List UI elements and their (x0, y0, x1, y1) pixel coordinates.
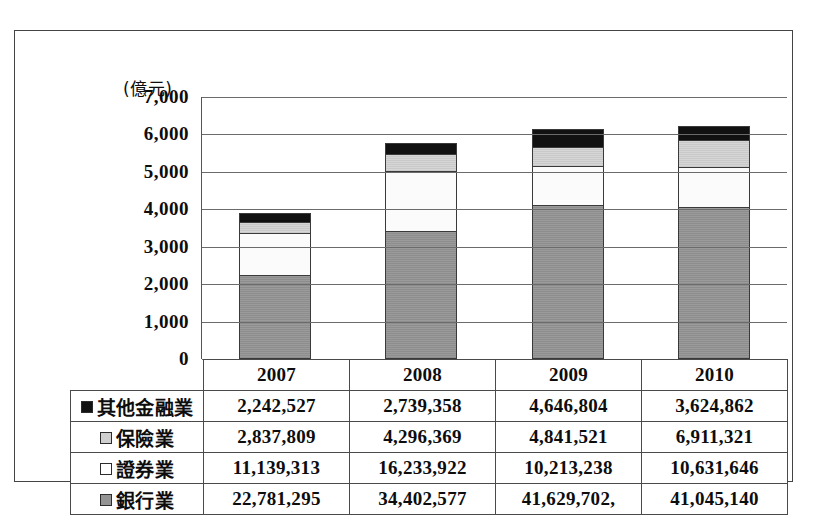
table-cell-2010: 10,631,646 (642, 453, 788, 484)
bar-segment-insurance[interactable] (386, 154, 456, 171)
data-table: 2007200820092010 其他金融業2,242,5272,739,358… (70, 359, 788, 515)
stacked-bar[interactable] (239, 213, 311, 359)
table-header-2007: 2007 (204, 360, 350, 391)
table-cell-2009: 4,841,521 (496, 422, 642, 453)
bar-group (202, 97, 787, 359)
legend-cell-bank[interactable]: 銀行業 (71, 484, 204, 515)
gridline (202, 209, 787, 210)
y-axis-tick-label: 6,000 (144, 123, 189, 145)
gridline (202, 322, 787, 323)
legend-cell-other[interactable]: 其他金融業 (71, 391, 204, 422)
table-cell-2009: 4,646,804 (496, 391, 642, 422)
legend-swatch-icon (100, 432, 112, 444)
table-row: 證券業11,139,31316,233,92210,213,23810,631,… (71, 453, 788, 484)
legend-label: 銀行業 (116, 490, 174, 512)
bar-segment-other[interactable] (386, 144, 456, 154)
table-cell-2007: 2,242,527 (204, 391, 350, 422)
table-row: 其他金融業2,242,5272,739,3584,646,8043,624,86… (71, 391, 788, 422)
gridline (202, 134, 787, 135)
table-row: 保險業2,837,8094,296,3694,841,5216,911,321 (71, 422, 788, 453)
table-cell-2007: 2,837,809 (204, 422, 350, 453)
chart-frame: (億元) 7,0006,0005,0004,0003,0002,0001,000… (14, 30, 793, 482)
legend-label: 證券業 (116, 459, 174, 481)
y-axis-tick-label: 3,000 (144, 236, 189, 258)
bar-segment-bank[interactable] (533, 205, 603, 358)
y-axis-tick-label: 5,000 (144, 161, 189, 183)
stacked-bar[interactable] (385, 143, 457, 359)
bar-segment-other[interactable] (240, 214, 310, 222)
bar-segment-securities[interactable] (386, 171, 456, 231)
bar-segment-insurance[interactable] (240, 222, 310, 233)
gridline (202, 97, 787, 98)
table-cell-2009: 41,629,702, (496, 484, 642, 515)
bar-segment-other[interactable] (533, 130, 603, 147)
legend-cell-securities[interactable]: 證券業 (71, 453, 204, 484)
gridline (202, 247, 787, 248)
legend-label: 其他金融業 (97, 397, 194, 419)
y-axis-tick-label: 1,000 (144, 311, 189, 333)
bar-slot-2008 (348, 97, 494, 359)
table-header-2008: 2008 (350, 360, 496, 391)
table-cell-2010: 41,045,140 (642, 484, 788, 515)
stacked-bar[interactable] (678, 126, 750, 359)
bar-slot-2010 (641, 97, 787, 359)
table-cell-2008: 34,402,577 (350, 484, 496, 515)
bar-segment-bank[interactable] (679, 207, 749, 358)
table-cell-2008: 4,296,369 (350, 422, 496, 453)
table-corner-cell (71, 360, 204, 391)
table-cell-2010: 3,624,862 (642, 391, 788, 422)
y-axis: 7,0006,0005,0004,0003,0002,0001,0000 (111, 97, 195, 359)
table-body: 其他金融業2,242,5272,739,3584,646,8043,624,86… (71, 391, 788, 515)
table-header-2009: 2009 (496, 360, 642, 391)
table-cell-2008: 16,233,922 (350, 453, 496, 484)
legend-swatch-icon (81, 401, 93, 413)
table-header-2010: 2010 (642, 360, 788, 391)
plot-area: 7,0006,0005,0004,0003,0002,0001,0000 (111, 97, 791, 359)
table-row: 銀行業22,781,29534,402,57741,629,702,41,045… (71, 484, 788, 515)
bar-segment-insurance[interactable] (533, 147, 603, 166)
bar-segment-bank[interactable] (240, 275, 310, 358)
y-axis-tick-label: 4,000 (144, 198, 189, 220)
bar-segment-bank[interactable] (386, 231, 456, 358)
bar-segment-insurance[interactable] (679, 140, 749, 166)
bar-slot-2007 (202, 97, 348, 359)
stacked-bar[interactable] (532, 129, 604, 359)
y-axis-tick-label: 2,000 (144, 273, 189, 295)
legend-label: 保險業 (116, 428, 174, 450)
bar-slot-2009 (495, 97, 641, 359)
gridline (202, 172, 787, 173)
table-header-row: 2007200820092010 (71, 360, 788, 391)
gridline (202, 284, 787, 285)
legend-cell-insurance[interactable]: 保險業 (71, 422, 204, 453)
table-cell-2008: 2,739,358 (350, 391, 496, 422)
table-cell-2010: 6,911,321 (642, 422, 788, 453)
legend-swatch-icon (100, 494, 112, 506)
bar-segment-securities[interactable] (240, 233, 310, 274)
plot-canvas (201, 97, 787, 359)
table-cell-2009: 10,213,238 (496, 453, 642, 484)
legend-swatch-icon (100, 463, 112, 475)
table-cell-2007: 22,781,295 (204, 484, 350, 515)
table-cell-2007: 11,139,313 (204, 453, 350, 484)
y-axis-tick-label: 7,000 (144, 86, 189, 108)
